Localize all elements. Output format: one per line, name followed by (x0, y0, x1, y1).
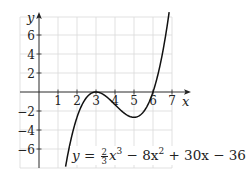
x-tick-label: 1 (54, 94, 62, 108)
fraction: 23 (101, 148, 108, 165)
y-tick-label: −4 (17, 124, 35, 138)
x-tick-label: 5 (130, 94, 138, 108)
y-tick-label: 2 (27, 67, 35, 81)
y-tick-label: 6 (27, 29, 35, 43)
x-tick-label: 3 (92, 94, 100, 108)
x-axis-label: x (182, 94, 190, 109)
x-tick-label: 7 (168, 94, 176, 108)
y-tick-label: −6 (17, 143, 35, 157)
y-tick-label: −2 (17, 105, 35, 119)
y-axis-label: y (26, 10, 35, 25)
equation-label: y = 23x3 − 8x2 + 30x − 36 (70, 146, 248, 165)
x-tick-label: 2 (73, 94, 81, 108)
y-tick-label: 4 (27, 48, 35, 62)
